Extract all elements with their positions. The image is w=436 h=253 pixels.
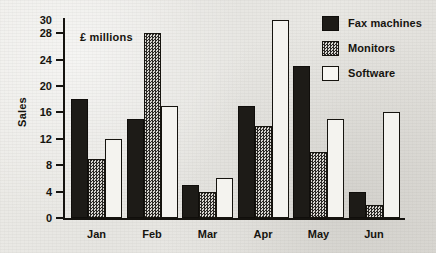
y-tick-label: 16 xyxy=(28,107,52,118)
y-tick-mark xyxy=(56,191,64,193)
y-tick-mark xyxy=(56,59,64,61)
bar-mar-monitors xyxy=(199,192,216,218)
bar-apr-monitors xyxy=(255,126,272,218)
legend-label: Fax machines xyxy=(348,17,422,29)
y-tick-mark xyxy=(56,217,64,219)
bar-jan-software xyxy=(105,139,122,218)
checkered-gray-swatch xyxy=(322,41,339,56)
y-tick-label: 8 xyxy=(28,160,52,171)
legend-item-software: Software xyxy=(322,62,422,84)
legend-label: Monitors xyxy=(348,42,395,54)
y-tick-mark xyxy=(56,111,64,113)
bar-jun-software xyxy=(383,112,400,218)
bar-apr-software xyxy=(272,20,289,218)
y-tick-mark xyxy=(56,164,64,166)
x-axis-line xyxy=(63,218,405,220)
x-label-feb: Feb xyxy=(124,228,180,240)
legend-label: Software xyxy=(348,67,395,79)
legend-item-fax-machines: Fax machines xyxy=(322,12,422,34)
x-label-apr: Apr xyxy=(235,228,291,240)
y-axis-tick-labels: 302824201612840 xyxy=(24,0,52,253)
y-tick-mark xyxy=(56,138,64,140)
y-tick-label: 4 xyxy=(28,187,52,198)
x-label-mar: Mar xyxy=(180,228,236,240)
bar-jun-fax-machines xyxy=(349,192,366,218)
y-tick-label: 20 xyxy=(28,81,52,92)
bar-feb-fax-machines xyxy=(127,119,144,218)
units-annotation: £ millions xyxy=(80,31,133,43)
bar-feb-monitors xyxy=(144,33,161,218)
legend-item-monitors: Monitors xyxy=(322,37,422,59)
bar-jan-monitors xyxy=(88,159,105,218)
bar-jan-fax-machines xyxy=(71,99,88,218)
bar-apr-fax-machines xyxy=(238,106,255,218)
bar-mar-software xyxy=(216,178,233,218)
x-label-jun: Jun xyxy=(346,228,402,240)
y-tick-label: 28 xyxy=(28,28,52,39)
chart-legend: Fax machinesMonitorsSoftware xyxy=(322,12,422,87)
bar-may-software xyxy=(327,119,344,218)
x-label-jan: Jan xyxy=(69,228,125,240)
bar-chart: Sales £ millions 302824201612840 JanFebM… xyxy=(0,0,436,253)
y-tick-mark xyxy=(56,32,64,34)
solid-black-swatch xyxy=(322,16,339,31)
y-tick-label: 30 xyxy=(28,15,52,26)
bar-may-fax-machines xyxy=(293,66,310,218)
bar-feb-software xyxy=(161,106,178,218)
white-outline-swatch xyxy=(322,66,339,81)
y-tick-label: 24 xyxy=(28,55,52,66)
y-tick-mark xyxy=(56,85,64,87)
x-label-may: May xyxy=(291,228,347,240)
y-tick-label: 0 xyxy=(28,213,52,224)
y-tick-label: 12 xyxy=(28,134,52,145)
bar-jun-monitors xyxy=(366,205,383,218)
bar-may-monitors xyxy=(310,152,327,218)
bar-mar-fax-machines xyxy=(182,185,199,218)
